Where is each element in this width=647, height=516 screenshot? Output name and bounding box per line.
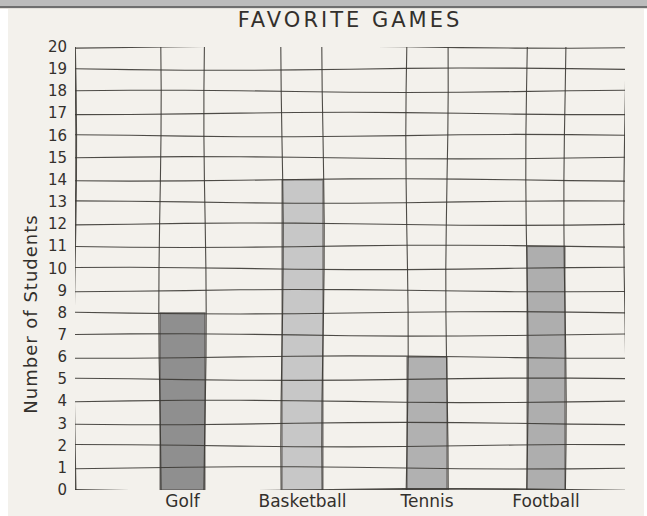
y-tick-label: 6 <box>31 348 67 366</box>
h-gridline <box>75 134 625 136</box>
x-category-label-basketball: Basketball <box>233 491 373 511</box>
v-gridline <box>75 47 76 490</box>
y-tick-label: 13 <box>31 193 67 211</box>
h-gridline <box>75 90 625 92</box>
h-gridline <box>75 47 625 48</box>
y-tick-label: 8 <box>31 304 67 322</box>
y-tick-label: 9 <box>31 282 67 300</box>
x-axis-category-labels: GolfBasketballTennisFootball <box>75 491 625 515</box>
chart-title: FAVORITE GAMES <box>75 8 625 32</box>
h-gridline <box>75 201 625 203</box>
h-gridline <box>75 157 625 159</box>
x-category-label-golf: Golf <box>113 491 253 511</box>
y-tick-label: 10 <box>31 260 67 278</box>
bar-tennis <box>407 357 447 490</box>
y-tick-label: 3 <box>31 415 67 433</box>
x-category-label-football: Football <box>476 491 616 511</box>
bar-chart-plot-area <box>75 47 625 490</box>
h-gridline <box>75 68 625 70</box>
v-gridline <box>406 47 408 490</box>
y-tick-label: 4 <box>31 392 67 410</box>
y-tick-label: 2 <box>31 437 67 455</box>
y-tick-label: 5 <box>31 370 67 388</box>
h-gridline <box>75 179 625 181</box>
y-tick-label: 1 <box>31 459 67 477</box>
y-tick-label: 18 <box>31 82 67 100</box>
y-axis-tick-labels: 20191817161514131211109876543210 <box>28 47 72 490</box>
y-tick-label: 0 <box>31 481 67 499</box>
bar-football <box>527 246 565 490</box>
y-tick-label: 20 <box>31 38 67 56</box>
y-tick-label: 14 <box>31 171 67 189</box>
bar-golf <box>160 313 205 490</box>
y-tick-label: 15 <box>31 149 67 167</box>
h-gridline <box>75 489 625 490</box>
y-tick-label: 11 <box>31 237 67 255</box>
y-tick-label: 7 <box>31 326 67 344</box>
bar-chart-svg <box>75 47 625 490</box>
h-gridline <box>75 223 625 225</box>
v-gridline <box>624 47 625 490</box>
y-tick-label: 19 <box>31 60 67 78</box>
y-tick-label: 12 <box>31 215 67 233</box>
y-tick-label: 17 <box>31 104 67 122</box>
h-gridline <box>75 112 625 114</box>
y-tick-label: 16 <box>31 127 67 145</box>
